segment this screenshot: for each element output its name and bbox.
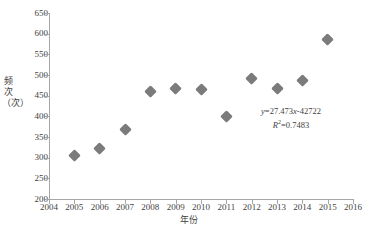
trendline-equation-annotation: y=27.473x-42722 R2=0.7483: [243, 106, 339, 131]
scatter-chart: 频次（次） 200250300350400450500550600650 200…: [0, 0, 378, 247]
equation-tail: -42722: [297, 106, 321, 116]
equation-body: =27.473: [265, 106, 293, 116]
regression-equation: y=27.473x-42722: [243, 106, 339, 117]
r-squared-value: R2=0.7483: [243, 117, 339, 131]
x-axis-title: 年份: [0, 215, 378, 225]
r-squared-number: =0.7483: [281, 120, 309, 130]
